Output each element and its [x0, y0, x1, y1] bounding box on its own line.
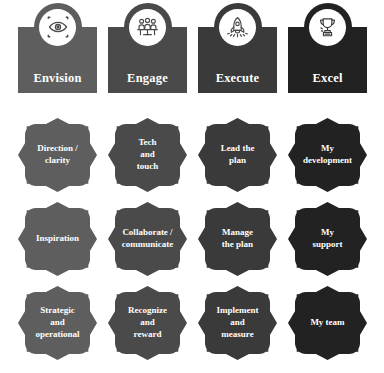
- badge-recognize-and-reward[interactable]: Recognize and reward: [108, 286, 187, 360]
- pillar-card-engage[interactable]: Engage: [108, 27, 187, 93]
- leadership-framework-diagram: Envision: [0, 0, 384, 373]
- pillar-icon-badge: [304, 3, 352, 51]
- pillar-title: Excel: [288, 72, 367, 85]
- badge-grid: Direction / clarity Inspiration Strategi…: [0, 108, 384, 373]
- badge-collaborate-communicate[interactable]: Collaborate / communicate: [108, 202, 187, 276]
- badge-label: My support: [292, 227, 363, 251]
- pillar-title: Execute: [198, 72, 277, 85]
- meeting-people-icon: [129, 9, 166, 46]
- pillar-header-row: Envision: [0, 0, 384, 108]
- pillar-card-execute[interactable]: Execute: [198, 27, 277, 93]
- badge-manage-the-plan[interactable]: Manage the plan: [198, 202, 277, 276]
- badge-my-support[interactable]: My support: [288, 202, 367, 276]
- badge-strategic-and-operational[interactable]: Strategic and operational: [18, 286, 97, 360]
- badge-label: My team: [292, 317, 363, 329]
- badge-label: Collaborate / communicate: [112, 227, 183, 251]
- pillar-card-envision[interactable]: Envision: [18, 27, 97, 93]
- badge-label: Strategic and operational: [22, 305, 93, 341]
- pillar-title: Engage: [108, 72, 187, 85]
- badge-label: Lead the plan: [202, 143, 273, 167]
- pillar-icon-badge: [34, 3, 82, 51]
- badge-label: Recognize and reward: [112, 305, 183, 341]
- badge-lead-the-plan[interactable]: Lead the plan: [198, 118, 277, 192]
- badge-label: Inspiration: [22, 233, 93, 245]
- pillar-card-excel[interactable]: Excel: [288, 27, 367, 93]
- trophy-icon: [309, 9, 346, 46]
- eye-target-icon: [39, 9, 76, 46]
- badge-label: Direction / clarity: [22, 143, 93, 167]
- pillar-icon-badge: [124, 3, 172, 51]
- badge-inspiration[interactable]: Inspiration: [18, 202, 97, 276]
- badge-label: Manage the plan: [202, 227, 273, 251]
- badge-my-team[interactable]: My team: [288, 286, 367, 360]
- badge-label: Implement and measure: [202, 305, 273, 341]
- pillar-title: Envision: [18, 72, 97, 85]
- badge-direction-clarity[interactable]: Direction / clarity: [18, 118, 97, 192]
- badge-my-development[interactable]: My development: [288, 118, 367, 192]
- badge-implement-and-measure[interactable]: Implement and measure: [198, 286, 277, 360]
- badge-label: Tech and touch: [112, 137, 183, 173]
- rocket-icon: [219, 9, 256, 46]
- pillar-icon-badge: [214, 3, 262, 51]
- badge-label: My development: [292, 143, 363, 167]
- badge-tech-and-touch[interactable]: Tech and touch: [108, 118, 187, 192]
